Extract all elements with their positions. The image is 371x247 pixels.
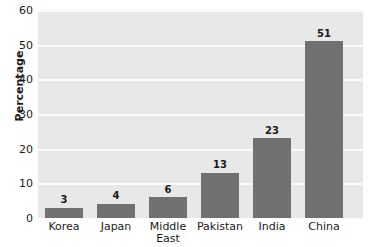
y-tick-label-40: 40: [11, 74, 33, 85]
x-tick-label-korea: Korea: [35, 221, 93, 233]
value-label-middle-east: 6: [148, 184, 188, 195]
y-tick-label-20: 20: [11, 144, 33, 155]
bar-india[interactable]: [253, 138, 291, 218]
value-label-china: 51: [304, 28, 344, 39]
y-tick-label-50: 50: [11, 40, 33, 51]
gridline-60: [38, 10, 363, 12]
y-tick-label-30: 30: [11, 109, 33, 120]
bar-korea[interactable]: [45, 208, 83, 218]
bar-pakistan[interactable]: [201, 173, 239, 218]
y-tick-label-0: 0: [11, 213, 33, 224]
x-tick-label-china: China: [295, 221, 353, 233]
x-tick-label-japan: Japan: [87, 221, 145, 233]
y-tick-label-60: 60: [11, 5, 33, 16]
x-tick-label-pakistan: Pakistan: [191, 221, 249, 233]
value-label-japan: 4: [96, 190, 136, 201]
plot-area: [38, 10, 363, 218]
bar-japan[interactable]: [97, 204, 135, 218]
x-tick-label-middle-east: Middle East: [139, 221, 197, 245]
value-label-pakistan: 13: [200, 159, 240, 170]
value-label-india: 23: [252, 125, 292, 136]
value-label-korea: 3: [44, 194, 84, 205]
y-tick-label-10: 10: [11, 178, 33, 189]
bar-middle-east[interactable]: [149, 197, 187, 218]
bar-chart: Percentage 60 50 40 30 20 10 0 3 4 6 13 …: [0, 0, 371, 247]
bar-china[interactable]: [305, 41, 343, 218]
x-tick-label-india: India: [243, 221, 301, 233]
